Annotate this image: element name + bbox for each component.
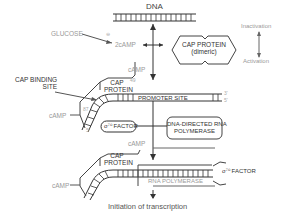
dna-top bbox=[113, 14, 196, 21]
rna-polymerase-box-label: DNA-DIRECTED RNA POLYMERASE bbox=[167, 121, 222, 135]
cap-protein-1-line1: CAP bbox=[104, 79, 130, 86]
cap-binding-site-line2: SITE bbox=[15, 83, 57, 90]
inhibition-symbol-icon: ⊖ bbox=[106, 31, 110, 38]
camp-left-1-label: cAMP bbox=[49, 112, 66, 119]
dna-bottom bbox=[84, 170, 213, 200]
cap-protein-2-line2: PROTEIN bbox=[104, 159, 130, 166]
cap-binding-site-line1: CAP BINDING bbox=[15, 76, 57, 83]
five-prime-left-label: 5' bbox=[86, 127, 90, 134]
activation-label: Activation bbox=[243, 58, 269, 65]
residue-87-label: 87 bbox=[83, 106, 89, 113]
cap-protein-label-1: CAP PROTEIN bbox=[104, 79, 130, 93]
initiation-caption: Initiation of transcription bbox=[108, 203, 187, 210]
rna-polymerase-box-line1: DNA-DIRECTED RNA bbox=[167, 121, 222, 128]
three-prime-label: 3' bbox=[224, 90, 228, 97]
cap-protein-1-line2: PROTEIN bbox=[104, 86, 130, 93]
glucose-label: GLUCOSE bbox=[51, 30, 83, 37]
cap-binding-site-label: CAP BINDING SITE bbox=[15, 76, 57, 90]
cap-protein-dimeric-line2: (dimeric) bbox=[180, 48, 228, 55]
residue-49-label: 49 bbox=[130, 77, 136, 84]
rna-polymerase-label: RNA POLYMERASE bbox=[148, 178, 203, 185]
sigma-factor-2-label: σ⁷⁰ FACTOR bbox=[222, 168, 256, 175]
diagram-graphics bbox=[0, 0, 289, 218]
cap-protein-dimeric-label: CAP PROTEIN (dimeric) bbox=[180, 41, 228, 55]
cap-protein-dimeric-line1: CAP PROTEIN bbox=[180, 41, 228, 48]
camp-left-2-label: cAMP bbox=[52, 182, 69, 189]
sigma-factor-1-label: σ⁷⁰ FACTOR bbox=[104, 123, 138, 130]
promoter-site-label: PROMOTER SITE bbox=[138, 95, 188, 102]
five-prime-label: 5' bbox=[224, 97, 228, 104]
cap-protein-label-2: CAP PROTEIN bbox=[104, 152, 130, 166]
rna-polymerase-box-line2: POLYMERASE bbox=[167, 128, 222, 135]
cap-protein-2-line1: CAP bbox=[104, 152, 130, 159]
camp-top-label: cAMP bbox=[128, 66, 145, 73]
dna-label: DNA bbox=[146, 3, 163, 10]
inactivation-label: Inactivation bbox=[241, 23, 271, 30]
camp-mid-label: cAMP bbox=[128, 140, 145, 147]
two-camp-label: 2cAMP bbox=[115, 41, 136, 48]
